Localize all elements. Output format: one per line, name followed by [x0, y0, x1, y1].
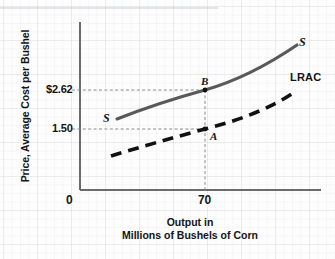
data-point-a-marker	[203, 127, 208, 132]
lrac-curve-label: LRAC	[290, 72, 321, 83]
y-tick-label-1-50: 1.50	[52, 123, 73, 134]
supply-curve-label-left: S	[103, 112, 110, 124]
y-axis-title: Price, Average Cost per Bushel	[19, 21, 31, 191]
lrac-curve	[111, 91, 296, 156]
x-axis-title-line2: Millions of Bushels of Corn	[60, 229, 320, 242]
data-point-b-marker	[203, 88, 208, 93]
y-tick-label-2-62: $2.62	[46, 84, 73, 95]
x-tick-label-70: 70	[198, 194, 211, 206]
point-b-label: B	[201, 76, 208, 87]
chart-figure: Price, Average Cost per Bushel $2.62 1.5…	[0, 0, 335, 259]
point-a-label: A	[210, 131, 217, 142]
x-axis-title-line1: Output in	[60, 216, 320, 229]
supply-curve-label-right: S	[299, 36, 306, 48]
x-axis-title: Output in Millions of Bushels of Corn	[60, 216, 320, 242]
x-tick-label-origin: 0	[66, 194, 72, 206]
